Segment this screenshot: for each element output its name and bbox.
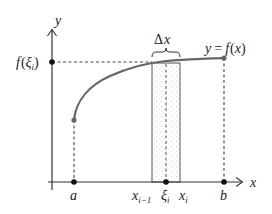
xi-point [163,179,169,185]
riemann-sum-diagram: y x f(ξi) Δx y=f(x) a b xi−1 [0,0,272,214]
f-xi-point [49,59,55,65]
a-point [71,179,77,185]
curve-start-point [71,117,76,122]
b-point [221,179,227,185]
x-axis-label: x [249,175,257,190]
x-axis [48,178,243,187]
a-label: a [70,188,77,203]
curve-label: y=f(x) [203,41,246,57]
y-axis [48,30,57,191]
x-i-label: xi [178,188,188,205]
delta-x-label: Δx [154,32,171,47]
curve-end-point [221,55,226,60]
b-label: b [220,188,227,203]
xi-label: ξi [161,188,170,205]
f-xi-label: f(ξi) [16,55,39,72]
function-curve [74,58,224,120]
y-axis-label: y [53,13,62,28]
delta-x-brace [152,48,180,57]
x-i-minus-1-label: xi−1 [131,188,151,205]
